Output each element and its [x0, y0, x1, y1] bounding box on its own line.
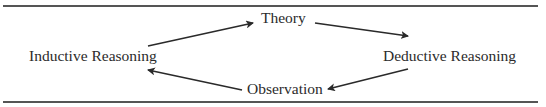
node-observation: Observation — [247, 80, 323, 98]
arrow-observation-to-inductive — [148, 70, 242, 90]
node-deductive-reasoning: Deductive Reasoning — [383, 47, 516, 65]
arrow-theory-to-deductive — [315, 23, 408, 36]
node-theory: Theory — [261, 9, 306, 27]
arrow-deductive-to-observation — [328, 69, 408, 89]
node-inductive-reasoning: Inductive Reasoning — [29, 47, 157, 65]
arrow-inductive-to-theory — [148, 23, 253, 46]
